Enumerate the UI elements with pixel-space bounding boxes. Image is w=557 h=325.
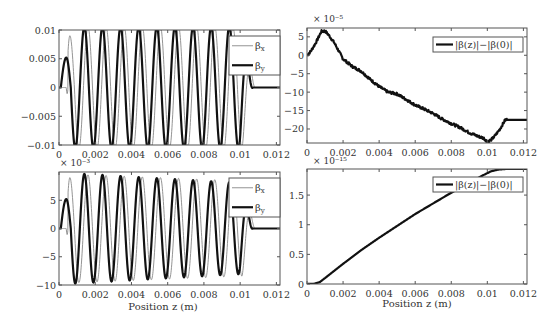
y-tick-label: 0 (50, 82, 56, 93)
y-tick-label: 0.005 (29, 53, 56, 64)
legend: |β(z)|−|β(0)| (433, 37, 523, 52)
y-tick-label: 1.5 (289, 190, 304, 201)
x-tick-label: 0.012 (263, 149, 290, 160)
y-tick-label: 1 (298, 219, 304, 230)
x-tick-label: 0 (304, 288, 310, 299)
y-tick-label: −5 (42, 251, 56, 262)
y-tick-label: 0 (50, 223, 56, 234)
x-tick-label: 0.008 (190, 149, 217, 160)
legend: βxβy (229, 36, 280, 75)
y-tick-label: 5 (50, 195, 56, 206)
x-axis-label: Position z (m) (128, 301, 197, 312)
y-tick-label: 5 (298, 31, 304, 42)
x-tick-label: 0.01 (230, 149, 251, 160)
legend: βxβy (229, 178, 280, 217)
x-tick-label: 0.002 (329, 288, 356, 299)
x-tick-label: 0.008 (438, 147, 465, 158)
legend-label: |β(z)|−|β(0)| (455, 39, 513, 51)
y-tick-label: 0 (298, 50, 304, 61)
x-tick-label: 0.01 (477, 147, 498, 158)
figure: 00.0020.0040.0060.0080.010.012−0.01−0.00… (0, 0, 557, 325)
y-tick-label: 0.01 (35, 25, 56, 36)
y-exponent-label: × 10⁻¹⁵ (313, 156, 347, 166)
x-axis-label: Position z (m) (382, 298, 451, 309)
y-tick-label: −0.01 (27, 140, 56, 151)
y-exponent-label: × 10⁻³ (60, 158, 91, 168)
x-tick-label: 0.004 (118, 289, 145, 300)
y-tick-label: 0.5 (289, 249, 304, 260)
legend-label: |β(z)|−|β(0)| (455, 179, 513, 191)
y-tick-label: −5 (290, 68, 304, 79)
x-tick-label: 0 (304, 147, 310, 158)
x-tick-label: 0.006 (402, 147, 429, 158)
y-tick-label: 0 (298, 279, 304, 290)
x-tick-label: 0.006 (154, 149, 181, 160)
y-tick-label: −10 (284, 87, 304, 98)
x-tick-label: 0.012 (510, 147, 537, 158)
x-tick-label: 0.012 (510, 288, 537, 299)
x-tick-label: 0 (56, 289, 62, 300)
legend: |β(z)|−|β(0)| (433, 177, 523, 192)
x-tick-label: 0.002 (82, 289, 109, 300)
x-tick-label: 0.01 (477, 288, 498, 299)
y-tick-label: −15 (284, 105, 304, 116)
x-tick-label: 0.004 (366, 147, 393, 158)
x-tick-label: 0.006 (154, 289, 181, 300)
x-tick-label: 0.004 (118, 149, 145, 160)
y-tick-label: −20 (284, 123, 304, 134)
y-tick-label: −0.005 (21, 111, 56, 122)
x-tick-label: 0.012 (263, 289, 290, 300)
x-tick-label: 0.008 (190, 289, 217, 300)
y-tick-label: −10 (36, 280, 56, 291)
x-tick-label: 0.01 (230, 289, 251, 300)
y-exponent-label: × 10⁻⁵ (313, 14, 344, 24)
